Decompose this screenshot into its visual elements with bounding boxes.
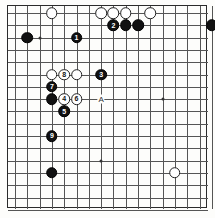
grid-line-vertical — [187, 6, 188, 209]
grid-line-vertical — [163, 6, 164, 209]
grid-line-horizontal — [8, 210, 208, 211]
stone-black — [46, 167, 58, 179]
board-frame: 218374659 A — [7, 5, 207, 208]
grid-line-horizontal — [8, 75, 208, 76]
stone-black-move-2: 2 — [108, 20, 120, 32]
grid-line-vertical — [15, 6, 16, 209]
grid-line-horizontal — [8, 87, 208, 88]
stone-black — [22, 32, 34, 44]
stone-black-move-5: 5 — [58, 106, 70, 118]
go-diagram: 218374659 A — [0, 0, 215, 218]
grid-line-horizontal — [8, 161, 208, 162]
grid-line-horizontal — [8, 185, 208, 186]
stone-white — [120, 7, 132, 19]
grid-line-vertical — [126, 6, 127, 209]
grid-line-horizontal — [8, 198, 208, 199]
grid-line-vertical — [150, 6, 151, 209]
grid-line-horizontal — [8, 62, 208, 63]
stone-white — [46, 7, 58, 19]
stone-black — [46, 93, 58, 105]
star-point — [161, 98, 164, 101]
grid-line-vertical — [200, 6, 201, 209]
stone-black-move-3: 3 — [95, 69, 107, 81]
grid-line-vertical — [101, 6, 102, 209]
stone-black-move-7: 7 — [46, 81, 58, 93]
stone-black — [132, 20, 144, 32]
marker-a: A — [97, 95, 104, 104]
stone-black-move-9: 9 — [46, 130, 58, 142]
star-point — [38, 36, 41, 39]
grid-line-vertical — [89, 6, 90, 209]
star-point — [100, 159, 103, 162]
stone-white — [145, 7, 157, 19]
grid-line-horizontal — [8, 99, 208, 100]
stone-white-move-8: 8 — [58, 69, 70, 81]
stone-white — [95, 7, 107, 19]
grid-line-horizontal — [8, 124, 208, 125]
stone-black — [206, 20, 215, 32]
grid-line-horizontal — [8, 136, 208, 137]
grid-line-horizontal — [8, 111, 208, 112]
stone-black-move-1: 1 — [71, 32, 83, 44]
stone-white — [108, 7, 120, 19]
stone-white — [169, 167, 181, 179]
grid-line-vertical — [138, 6, 139, 209]
grid-line-horizontal — [8, 148, 208, 149]
stone-black — [120, 20, 132, 32]
grid-line-horizontal — [8, 50, 208, 51]
stone-white-move-6: 6 — [71, 93, 83, 105]
stone-white — [46, 69, 58, 81]
grid-line-vertical — [113, 6, 114, 209]
stone-white-move-4: 4 — [58, 93, 70, 105]
grid-line-vertical — [212, 6, 213, 209]
stone-white — [71, 69, 83, 81]
